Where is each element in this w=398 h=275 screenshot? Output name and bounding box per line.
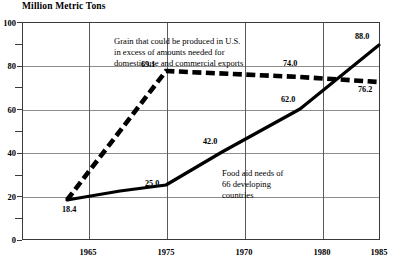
chart-title: Million Metric Tons	[22, 1, 106, 11]
x-axis-label-1980: 1980	[314, 248, 331, 257]
gridline-1980	[323, 23, 324, 239]
y-tick-mark-90	[15, 44, 22, 45]
gridline-60	[23, 110, 379, 111]
x-axis-label-1985: 1985	[371, 248, 388, 257]
annotation-grain-surplus: Grain that could be produced in U.S. in …	[114, 36, 243, 70]
gridline-1970	[245, 23, 246, 239]
chart-container: Million Metric Tons 100 80 60 40 20 0 18…	[0, 0, 398, 275]
annotation-foodaid-line-2: 66 developing	[222, 179, 283, 190]
x-axis-label-1965: 1965	[80, 248, 97, 257]
y-axis-label-40: 40	[0, 149, 16, 158]
gridline-20	[23, 197, 379, 198]
data-label-76-2: 76.2	[358, 86, 372, 94]
x-axis-label-1975: 1975	[158, 248, 175, 257]
y-tick-mark-70	[15, 87, 22, 88]
y-axis-label-80: 80	[0, 62, 16, 71]
annotation-food-aid: Food aid needs of 66 developing countrie…	[222, 168, 283, 202]
annotation-grain-line-2: in excess of amounts needed for	[114, 47, 243, 58]
data-label-18-4: 18.4	[62, 206, 76, 214]
annotation-foodaid-line-1: Food aid needs of	[222, 168, 283, 179]
annotation-foodaid-line-3: countries	[222, 190, 283, 201]
x-axis-label-1970: 1970	[236, 248, 253, 257]
y-axis-label-100: 100	[0, 19, 16, 28]
data-label-25-0: 25.0	[145, 180, 159, 188]
data-label-42-0: 42.0	[203, 138, 217, 146]
data-label-88-0: 88.0	[355, 33, 369, 41]
y-tick-mark-0	[17, 240, 22, 241]
y-tick-mark-50	[15, 131, 22, 132]
data-label-62-0: 62.0	[281, 96, 295, 104]
y-axis-label-20: 20	[0, 193, 16, 202]
gridline-40	[23, 153, 379, 154]
y-axis-label-0: 0	[0, 236, 16, 245]
annotation-grain-line-3: domestic use and commercial exports	[114, 58, 243, 69]
y-tick-mark-10	[15, 218, 22, 219]
y-tick-mark-30	[15, 175, 22, 176]
gridline-1965	[89, 23, 90, 239]
y-axis-label-60: 60	[0, 106, 16, 115]
annotation-grain-line-1: Grain that could be produced in U.S.	[114, 36, 243, 47]
data-label-74-0: 74.0	[283, 60, 297, 68]
